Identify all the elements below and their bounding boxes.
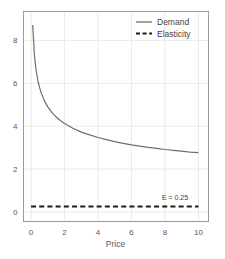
x-tick-label: 2 bbox=[62, 228, 67, 237]
x-tick-label: 6 bbox=[129, 228, 134, 237]
y-tick-label: 6 bbox=[13, 79, 18, 88]
x-tick-label: 8 bbox=[163, 228, 168, 237]
y-tick-label: 2 bbox=[13, 165, 18, 174]
x-tick-label: 10 bbox=[194, 228, 203, 237]
y-tick-label: 8 bbox=[13, 36, 18, 45]
chart-container: 02468 0246810 E = 0.25 DemandElasticity … bbox=[0, 0, 225, 259]
elasticity-annotation: E = 0.25 bbox=[162, 194, 188, 201]
y-tick-label: 4 bbox=[13, 122, 18, 131]
x-tick-label: 0 bbox=[29, 228, 34, 237]
x-axis-title: Price bbox=[106, 239, 126, 249]
y-tick-label: 0 bbox=[13, 208, 18, 217]
legend-label-demand: Demand bbox=[157, 17, 189, 27]
annotations-group: E = 0.25 bbox=[162, 194, 188, 201]
elasticity-demand-chart: 02468 0246810 E = 0.25 DemandElasticity … bbox=[0, 0, 225, 259]
legend-label-elasticity: Elasticity bbox=[157, 29, 191, 39]
x-tick-label: 4 bbox=[96, 228, 101, 237]
